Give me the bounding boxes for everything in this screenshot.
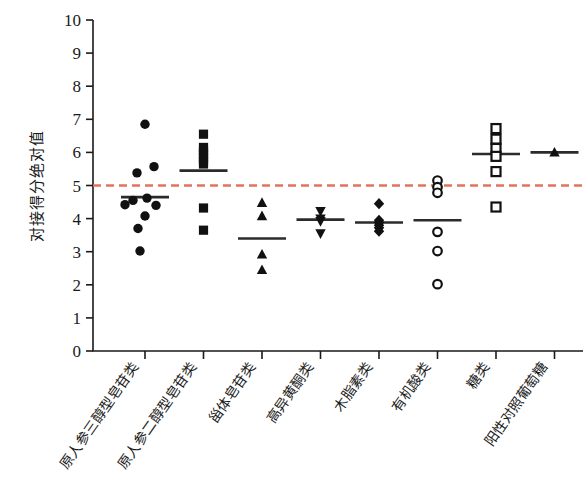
data-point-square: [199, 159, 208, 168]
data-point-circle: [149, 162, 158, 171]
x-category-label: 甾体皂苷类: [205, 360, 258, 427]
x-category-label: 高异黄酮类: [264, 360, 317, 427]
data-point-circle: [135, 246, 144, 255]
data-point-square: [199, 203, 208, 212]
data-point-open-circle: [433, 280, 442, 289]
data-point-open-square: [492, 135, 501, 144]
x-axis-ticks: [145, 351, 555, 359]
dot-plot-chart: 012345678910对接得分绝对值原人参三醇型皂苷类原人参二醇型皂苷类甾体皂…: [0, 0, 583, 493]
x-category-label: 木脂素类: [330, 360, 375, 415]
series-6: [414, 176, 462, 288]
y-tick-label: 9: [73, 44, 82, 63]
series-3: [238, 197, 286, 274]
y-tick-label: 5: [73, 177, 82, 196]
x-category-label: 糖类: [463, 360, 492, 392]
data-point-circle: [151, 201, 160, 210]
y-tick-label: 6: [73, 143, 82, 162]
data-point-triangle-up: [257, 265, 267, 275]
data-point-circle: [140, 120, 149, 129]
y-tick-label: 0: [73, 342, 82, 361]
x-category-label: 有机酸类: [389, 360, 434, 415]
x-category-label: 阳性对照葡萄糖: [482, 360, 551, 449]
data-point-open-square: [492, 124, 501, 133]
data-point-circle: [128, 196, 137, 205]
data-point-square: [199, 130, 208, 139]
data-point-open-circle: [433, 188, 442, 197]
y-tick-label: 4: [73, 210, 82, 229]
data-point-triangle-down: [315, 217, 325, 227]
chart-figure: 012345678910对接得分绝对值原人参三醇型皂苷类原人参二醇型皂苷类甾体皂…: [0, 0, 583, 493]
y-tick-label: 2: [73, 276, 82, 295]
series-2: [180, 130, 228, 235]
data-point-diamond: [374, 198, 384, 209]
y-axis-title: 对接得分绝对值: [28, 130, 46, 242]
series-5: [355, 198, 403, 237]
data-point-open-circle: [433, 228, 442, 237]
data-point-open-square: [492, 203, 501, 212]
data-point-circle: [140, 211, 149, 220]
data-point-circle: [142, 193, 151, 202]
data-point-triangle-up: [257, 249, 267, 259]
y-tick-label: 7: [73, 110, 82, 129]
y-tick-label: 3: [73, 243, 82, 262]
data-point-circle: [132, 168, 141, 177]
data-point-circle: [120, 200, 129, 209]
data-point-triangle-up: [257, 197, 267, 207]
series-7: [472, 124, 520, 211]
y-axis-title-text: 对接得分绝对值: [28, 130, 46, 242]
series-4: [297, 207, 345, 239]
data-point-triangle-up: [257, 211, 267, 221]
series-8: [531, 147, 579, 157]
data-point-open-square: [492, 167, 501, 176]
data-point-circle: [133, 224, 142, 233]
y-tick-label: 8: [73, 77, 82, 96]
y-axis-ticks: 012345678910: [64, 11, 93, 361]
data-point-square: [199, 226, 208, 235]
x-axis-category-labels: 原人参三醇型皂苷类原人参二醇型皂苷类甾体皂苷类高异黄酮类木脂素类有机酸类糖类阳性…: [56, 360, 551, 472]
data-point-open-square: [492, 152, 501, 161]
y-tick-label: 1: [73, 309, 82, 328]
y-tick-label: 10: [64, 11, 81, 30]
series-1: [120, 120, 169, 256]
data-point-triangle-down: [315, 229, 325, 239]
data-point-open-circle: [433, 247, 442, 256]
